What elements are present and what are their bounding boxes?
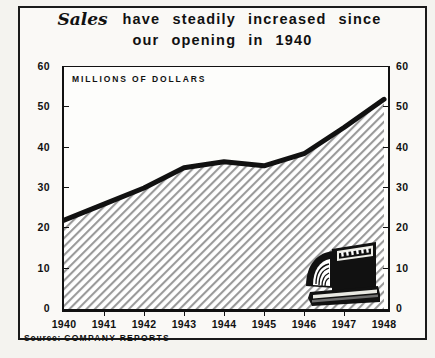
title-word: since xyxy=(339,9,382,30)
y-axis-tick-label-left: 40 xyxy=(10,141,50,153)
x-axis-tick-mark xyxy=(224,312,225,316)
x-axis-tick-label: 1948 xyxy=(361,318,407,330)
title-word: increased xyxy=(248,9,327,30)
y-axis-tick-label-right: 50 xyxy=(396,100,435,112)
y-axis-tick-mark xyxy=(64,187,69,188)
y-axis-tick-label-left: 30 xyxy=(10,181,50,193)
chart-figure: Saleshavesteadilyincreasedsince ouropeni… xyxy=(0,0,435,358)
x-axis-tick-mark xyxy=(144,312,145,316)
title-line-1: Saleshavesteadilyincreasedsince xyxy=(18,8,427,30)
y-axis-tick-label-left: 60 xyxy=(10,60,50,72)
title-word: have xyxy=(123,9,161,30)
y-axis-tick-mark xyxy=(64,147,69,148)
y-axis-tick-label-right: 40 xyxy=(396,141,435,153)
x-axis-tick-mark xyxy=(264,312,265,316)
register-drawer xyxy=(308,286,380,306)
cash-register-icon xyxy=(300,236,382,310)
y-axis-tick-label-left: 10 xyxy=(10,262,50,274)
x-axis-tick-mark xyxy=(304,312,305,316)
y-axis-tick-label-right: 20 xyxy=(396,221,435,233)
x-axis-tick-mark xyxy=(344,312,345,316)
y-axis-tick-label-left: 50 xyxy=(10,100,50,112)
y-axis-tick-mark xyxy=(64,106,69,107)
title-word: steadily xyxy=(172,9,236,30)
y-axis-tick-mark xyxy=(383,147,388,148)
title-word: in xyxy=(248,30,263,51)
y-axis-tick-label-right: 30 xyxy=(396,181,435,193)
register-keys xyxy=(306,251,334,288)
title-word: our xyxy=(132,30,159,51)
y-axis-tick-label-left: 20 xyxy=(10,221,50,233)
title-line-2: ouropeningin1940 xyxy=(18,30,427,51)
y-axis-unit-note: MILLIONS OF DOLLARS xyxy=(72,74,206,84)
title-word: 1940 xyxy=(275,30,312,51)
y-axis-tick-mark xyxy=(383,268,388,269)
x-axis-tick-mark xyxy=(184,312,185,316)
y-axis-tick-label-right: 60 xyxy=(396,60,435,72)
y-axis-tick-mark xyxy=(383,106,388,107)
y-axis-tick-mark xyxy=(383,227,388,228)
y-axis-tick-label-right: 10 xyxy=(396,262,435,274)
source-note: Source:COMPANY REPORTS xyxy=(24,333,170,343)
x-axis-tick-mark xyxy=(104,312,105,316)
y-axis-tick-label-left: 0 xyxy=(10,302,50,314)
chart-title: Saleshavesteadilyincreasedsince ouropeni… xyxy=(18,8,427,51)
y-axis-tick-mark xyxy=(383,187,388,188)
title-word: opening xyxy=(171,30,236,51)
y-axis-tick-label-right: 0 xyxy=(396,302,435,314)
source-label: Source: xyxy=(24,333,61,343)
title-script-word: Sales xyxy=(57,9,107,29)
source-value: COMPANY REPORTS xyxy=(64,333,170,343)
y-axis-tick-mark xyxy=(64,227,69,228)
y-axis-tick-mark xyxy=(64,268,69,269)
